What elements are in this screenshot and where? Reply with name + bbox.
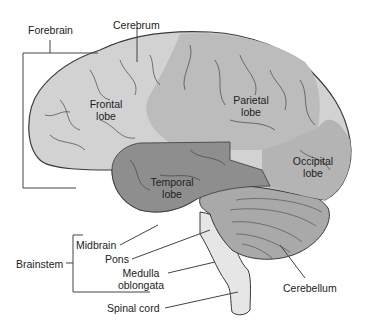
label-midbrain: Midbrain (76, 239, 116, 251)
medulla-pointer (168, 262, 215, 273)
midbrain-pointer (120, 225, 158, 245)
label-spinal-cord: Spinal cord (107, 302, 160, 314)
label-cerebellum: Cerebellum (283, 282, 337, 294)
label-pons: Pons (105, 253, 129, 265)
label-brainstem: Brainstem (16, 258, 63, 270)
label-medulla-oblongata: Medullaoblongata (116, 267, 166, 291)
pons-pointer (132, 230, 210, 259)
label-forebrain: Forebrain (28, 24, 73, 36)
label-temporal-lobe: Temporallobe (144, 176, 200, 200)
label-parietal-lobe: Parietallobe (226, 94, 276, 118)
label-frontal-lobe: Frontallobe (84, 98, 128, 122)
spinal-pointer (165, 292, 238, 308)
label-occipital-lobe: Occipitallobe (286, 155, 340, 179)
label-cerebrum: Cerebrum (113, 19, 160, 31)
